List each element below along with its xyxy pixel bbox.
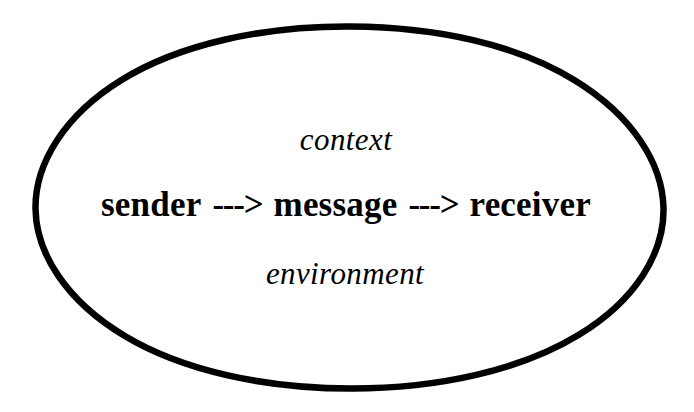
communication-model-diagram: context sender ---> message ---> receive… [0, 0, 694, 412]
environment-label: environment [266, 258, 424, 289]
context-label: context [300, 124, 392, 155]
communication-flow-row: sender ---> message ---> receiver [101, 185, 591, 225]
flow-node-sender: sender [101, 185, 201, 225]
flow-arrow-sender-to-message-icon: ---> [201, 185, 273, 225]
flow-node-receiver: receiver [470, 185, 591, 225]
flow-node-message: message [274, 185, 398, 225]
flow-arrow-message-to-receiver-icon: ---> [397, 185, 469, 225]
diagram-text-stack: context sender ---> message ---> receive… [0, 0, 694, 412]
